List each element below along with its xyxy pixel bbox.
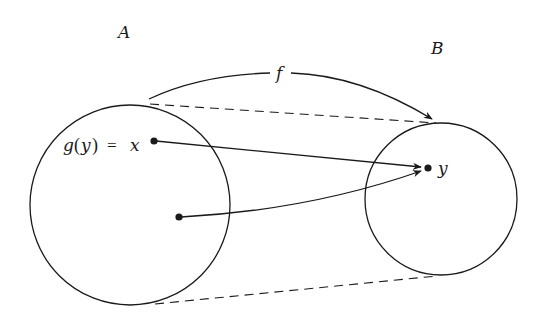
point-y [424, 164, 431, 171]
svg-text:=: = [107, 136, 117, 155]
function-f-arrow-left [149, 73, 270, 99]
mapping-arrow-x-to-y [156, 141, 421, 167]
point-y-label: y [437, 158, 448, 178]
svg-text:g: g [63, 135, 74, 155]
function-f-arrow-right [291, 73, 432, 119]
set-a-label: A [116, 22, 130, 42]
mapping-arrow-second-to-y [181, 171, 421, 217]
lower-dashed-line [155, 276, 437, 304]
svg-text:y: y [80, 135, 91, 155]
point-x-label: g ( y ) = x [63, 135, 140, 156]
function-f-label: f [274, 63, 285, 83]
upper-dashed-line [150, 104, 436, 123]
set-b-circle [365, 123, 517, 275]
set-b-label: B [430, 38, 444, 58]
svg-text:): ) [92, 135, 98, 156]
svg-text:(: ( [74, 135, 80, 156]
function-diagram: A B f g ( y ) = x y [0, 0, 541, 319]
svg-text:x: x [130, 135, 140, 155]
